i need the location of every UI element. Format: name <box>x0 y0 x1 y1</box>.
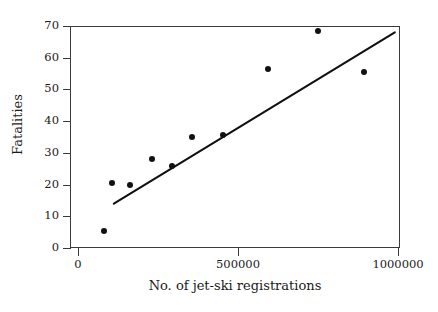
y-tick-label: 60 <box>19 52 59 64</box>
data-point <box>265 66 271 72</box>
x-tick-mark <box>398 248 399 256</box>
y-tick-mark <box>63 185 71 186</box>
x-tick-label: 0 <box>74 259 81 271</box>
x-axis-title: No. of jet-ski registrations <box>70 278 400 293</box>
y-tick-mark <box>63 26 71 27</box>
y-tick-label: 40 <box>19 115 59 127</box>
x-tick-label: 500000 <box>216 259 260 271</box>
x-tick-mark <box>238 248 239 256</box>
y-tick-label: 70 <box>19 20 59 32</box>
y-tick-mark <box>63 248 71 249</box>
y-tick-mark <box>63 89 71 90</box>
y-tick-mark <box>63 216 71 217</box>
scatter-plot-figure: Fatalities 010203040506070 0500000100000… <box>0 0 438 312</box>
y-tick-mark <box>63 58 71 59</box>
data-point <box>189 134 195 140</box>
x-axis-title-label: No. of jet-ski registrations <box>149 278 322 293</box>
y-tick-label: 20 <box>19 179 59 191</box>
data-point <box>127 182 133 188</box>
y-tick-label: 10 <box>19 210 59 222</box>
x-tick-label: 1000000 <box>372 259 423 271</box>
y-tick-mark <box>63 153 71 154</box>
y-tick-label: 30 <box>19 147 59 159</box>
x-tick-mark <box>78 248 79 256</box>
data-point <box>315 28 321 34</box>
y-tick-mark <box>63 121 71 122</box>
y-tick-label: 50 <box>19 83 59 95</box>
data-point <box>169 163 175 169</box>
y-tick-label: 0 <box>19 242 59 254</box>
data-point <box>101 228 107 234</box>
plot-area <box>70 26 400 248</box>
